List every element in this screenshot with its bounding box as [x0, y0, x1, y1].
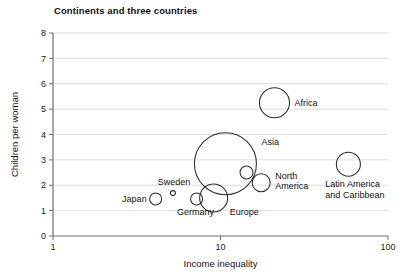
y-tick-label-1: 1: [41, 206, 46, 216]
y-axis-ticks: 012345678: [41, 28, 53, 241]
y-tick-label-4: 4: [41, 130, 46, 140]
y-axis-title: Children per woman: [9, 92, 20, 177]
bubble-unlabeled-8[interactable]: [240, 166, 253, 179]
bubble-label-germany: Germany: [177, 207, 215, 217]
bubble-germany[interactable]: [191, 193, 203, 205]
bubble-latin-america-and-caribbean[interactable]: [336, 152, 360, 176]
bubble-label-japan: Japan: [122, 194, 147, 204]
bubble-label-latin-america-and-caribbean: Latin America: [325, 179, 380, 189]
bubble-label-north-america: America: [275, 181, 308, 191]
bubble-label-sweden: Sweden: [158, 177, 191, 187]
y-tick-label-3: 3: [41, 155, 46, 165]
y-tick-label-0: 0: [41, 231, 46, 241]
bubble-label-latin-america-and-caribbean: and Caribbean: [325, 190, 384, 200]
x-tick-label-100: 100: [380, 242, 395, 252]
x-axis-title: Income inequality: [184, 258, 258, 269]
x-tick-label-1: 1: [50, 242, 55, 252]
bubble-chart: Continents and three countries 012345678…: [0, 0, 416, 275]
y-tick-label-7: 7: [41, 54, 46, 64]
bubble-label-north-america: North: [275, 171, 297, 181]
bubble-north-america[interactable]: [252, 174, 270, 192]
bubble-label-europe: Europe: [230, 207, 259, 217]
y-tick-label-6: 6: [41, 79, 46, 89]
y-tick-label-2: 2: [41, 180, 46, 190]
plot-area: 012345678 110100 AfricaAsiaEuropeNorthAm…: [0, 0, 416, 275]
x-tick-label-10: 10: [215, 242, 225, 252]
y-tick-label-5: 5: [41, 104, 46, 114]
bubble-label-africa: Africa: [294, 98, 317, 108]
bubble-japan[interactable]: [150, 193, 162, 205]
bubble-label-asia: Asia: [261, 137, 279, 147]
bubble-sweden[interactable]: [170, 191, 175, 196]
y-tick-label-8: 8: [41, 28, 46, 38]
x-axis-ticks: 110100: [50, 236, 395, 252]
bubble-africa[interactable]: [259, 88, 289, 118]
